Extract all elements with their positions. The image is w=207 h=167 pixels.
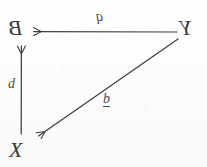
edge-label-top: q [96,10,103,24]
node-label-x: X [9,139,22,161]
edge-label-diagonal: b [103,92,110,107]
arrow-diagonal [39,39,179,136]
node-label-y: Y [180,17,192,39]
edge-label-left: d [8,77,15,91]
diagram-arrows [0,0,207,167]
diagram-canvas: B Y X q d b [0,0,207,167]
node-label-b: B [9,17,22,39]
